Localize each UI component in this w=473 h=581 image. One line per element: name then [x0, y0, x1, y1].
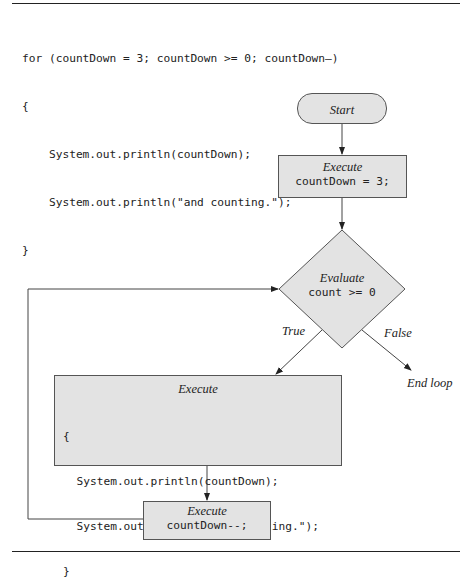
- update-code: countDown--;: [144, 519, 270, 532]
- init-code: countDown = 3;: [279, 175, 406, 188]
- body-code-line: }: [63, 564, 341, 579]
- condition-text: Evaluate count >= 0: [279, 271, 405, 299]
- body-title: Execute: [55, 382, 341, 397]
- condition-title: Evaluate: [279, 271, 405, 286]
- body-process-box: Execute { System.out.println(countDown);…: [54, 375, 342, 466]
- update-process-box: Execute countDown--;: [143, 501, 271, 540]
- init-title: Execute: [279, 160, 406, 175]
- bottom-rule: [12, 551, 460, 552]
- condition-code: count >= 0: [279, 286, 405, 299]
- false-label: False: [384, 326, 412, 341]
- true-label: True: [282, 324, 305, 339]
- body-code-line: {: [63, 429, 341, 444]
- start-terminal: Start: [297, 93, 387, 124]
- start-label: Start: [330, 103, 354, 117]
- update-title: Execute: [144, 504, 270, 519]
- end-loop-label: End loop: [407, 376, 452, 391]
- body-code-line: System.out.println(countDown);: [63, 474, 341, 489]
- init-process-box: Execute countDown = 3;: [278, 155, 407, 198]
